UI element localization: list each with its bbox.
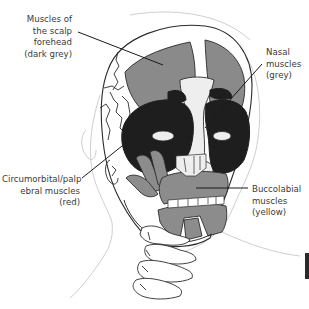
label-line: muscles (266, 59, 301, 71)
label-line: Nasal (266, 47, 301, 59)
edge-marker (305, 253, 309, 279)
label-line: Muscles of (8, 14, 72, 26)
label-line: (dark grey) (8, 49, 72, 61)
label-line: the scalp (8, 26, 72, 38)
label-line: (red) (2, 197, 80, 209)
label-line: muscles (252, 196, 301, 208)
label-buccolabial-muscles: Buccolabial muscles (yellow) (252, 184, 301, 219)
label-line: ebral muscles (2, 186, 80, 198)
label-nasal-muscles: Nasal muscles (grey) (266, 47, 301, 82)
diagram-canvas: Muscles of the scalp forehead (dark grey… (0, 0, 309, 309)
label-line: (yellow) (252, 207, 301, 219)
label-line: Circumorbital/palp (2, 174, 80, 186)
label-line: forehead (8, 37, 72, 49)
label-circumorbital-muscles: Circumorbital/palp ebral muscles (red) (2, 174, 80, 209)
label-line: Buccolabial (252, 184, 301, 196)
label-scalp-forehead-muscles: Muscles of the scalp forehead (dark grey… (8, 14, 72, 60)
label-line: (grey) (266, 70, 301, 82)
